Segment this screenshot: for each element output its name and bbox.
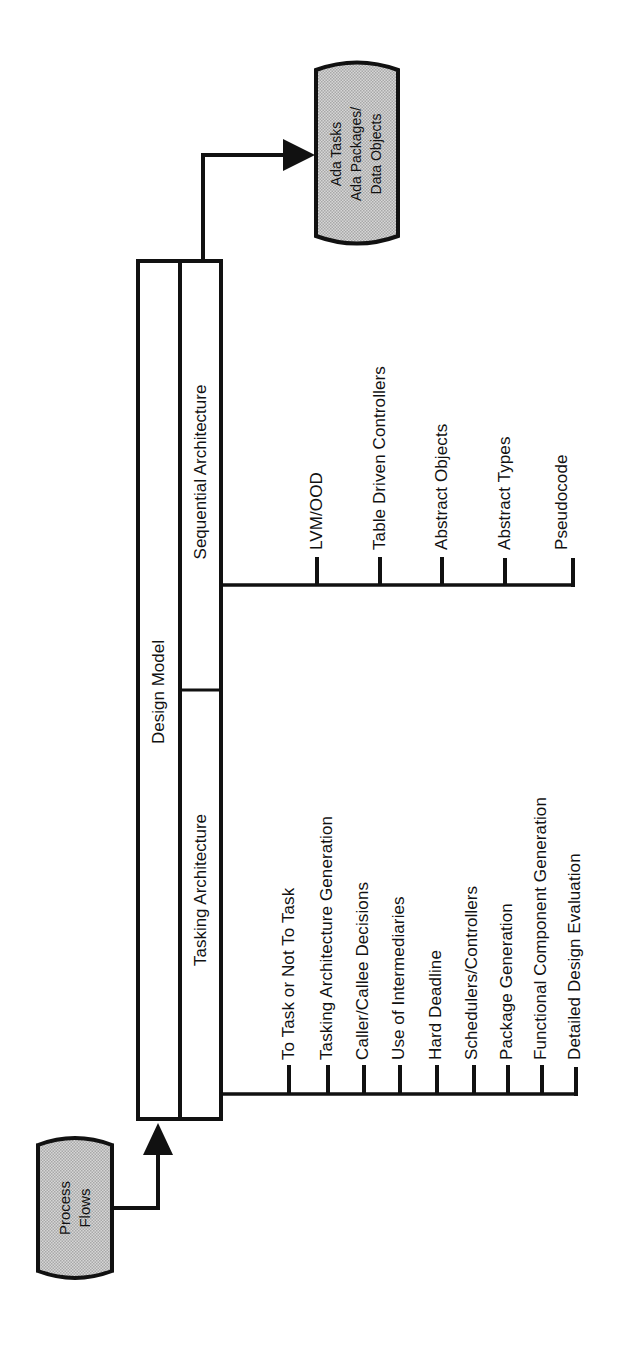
tasking-architecture-title: Tasking Architecture	[192, 814, 210, 966]
tasking-item: Functional Component Generation	[532, 797, 550, 1060]
tasking-item: Schedulers/Controllers	[463, 886, 481, 1060]
sequential-item: Pseudocode	[553, 454, 571, 550]
sequential-item: Table Driven Controllers	[371, 366, 389, 550]
sequential-item: LVM/OOD	[308, 472, 326, 550]
input-terminal: Process Flows	[55, 1181, 95, 1235]
diagram-graphics	[0, 0, 629, 1347]
design-model-title: Design Model	[150, 640, 168, 744]
arrowhead-up-icon	[143, 1123, 173, 1155]
sequential-architecture-title: Sequential Architecture	[192, 385, 210, 560]
sequential-item: Abstract Objects	[433, 424, 451, 550]
output-connector	[203, 139, 315, 261]
output-terminal-line: Ada Packages/	[346, 107, 366, 201]
output-terminal-line: Ada Tasks	[326, 107, 346, 201]
tasking-item: Tasking Architecture Generation	[318, 816, 336, 1060]
tasking-item: To Task or Not To Task	[280, 888, 298, 1060]
tasking-item: Use of Intermediaries	[390, 896, 408, 1060]
output-terminal-line: Data Objects	[366, 107, 386, 201]
arrowhead-right-icon	[283, 139, 315, 171]
input-connector	[112, 1123, 173, 1208]
tasking-branch-lines	[221, 1065, 578, 1096]
tasking-item: Hard Deadline	[427, 950, 445, 1060]
tasking-item: Caller/Callee Decisions	[354, 882, 372, 1060]
sequential-item: Abstract Types	[496, 436, 514, 550]
sequential-branch-lines	[221, 557, 575, 587]
tasking-item: Detailed Design Evaluation	[566, 853, 584, 1060]
design-model-diagram: Ada Tasks Ada Packages/ Data Objects Pro…	[0, 0, 629, 1347]
tasking-item: Package Generation	[498, 903, 516, 1060]
input-terminal-line: Flows	[75, 1181, 95, 1235]
input-terminal-line: Process	[55, 1181, 75, 1235]
output-terminal: Ada Tasks Ada Packages/ Data Objects	[326, 107, 386, 201]
